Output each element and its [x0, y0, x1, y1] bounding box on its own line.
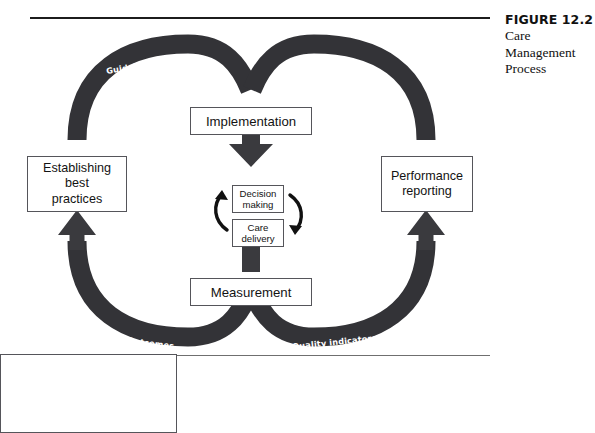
arrowhead-to-performance	[407, 210, 445, 250]
arrowhead-to-establishing	[58, 210, 96, 250]
node-implementation-label: Implementation	[191, 114, 311, 129]
node-care-delivery[interactable]: Care delivery	[232, 219, 284, 247]
arrowhead-curved-down-right	[289, 225, 302, 235]
care-management-process-diagram: Establishing best practices Performance …	[0, 18, 500, 354]
figure-number: FIGURE 12.2	[505, 12, 591, 28]
node-establishing-best-practices-label: Establishing best practices	[28, 161, 126, 208]
arrowhead-curved-up-left	[215, 190, 228, 200]
node-implementation[interactable]: Implementation	[190, 107, 312, 135]
node-decision-making-label: Decision making	[233, 188, 283, 210]
figure-title-line-1: Care	[505, 28, 591, 45]
figure-title-line-2: Management	[505, 45, 591, 62]
node-performance-reporting[interactable]: Performance reporting	[381, 156, 473, 212]
node-decision-making[interactable]: Decision making	[232, 185, 284, 213]
node-measurement-label: Measurement	[191, 285, 311, 300]
node-establishing-best-practices[interactable]: Establishing best practices	[27, 156, 127, 212]
node-care-delivery-label: Care delivery	[233, 222, 283, 244]
node-measurement[interactable]: Measurement	[190, 278, 312, 306]
node-performance-reporting-label: Performance reporting	[382, 169, 472, 200]
node-process-container	[0, 354, 177, 433]
figure-title-line-3: Process	[505, 61, 591, 78]
figure-caption: FIGURE 12.2 Care Management Process	[505, 12, 591, 78]
